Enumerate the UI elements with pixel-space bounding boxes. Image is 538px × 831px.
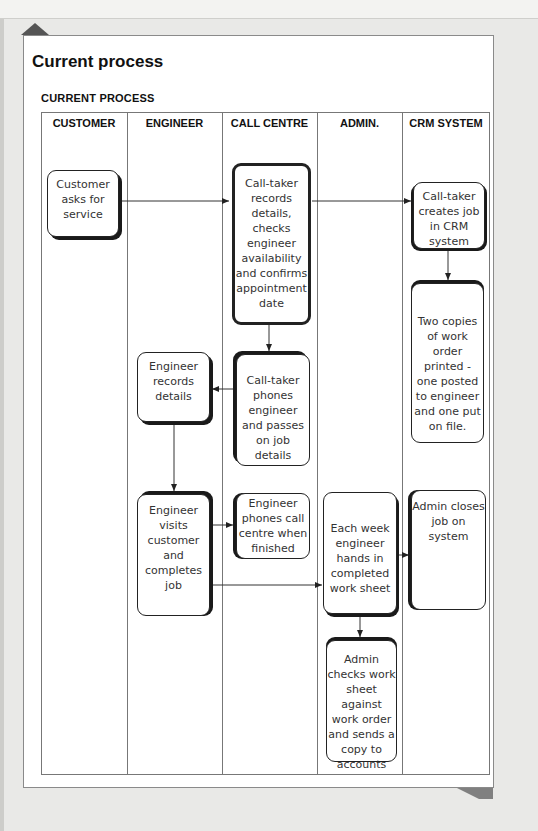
step-customer-asks-for-service: Customer asks for service xyxy=(47,170,119,237)
step-admin-checks-worksheet: Admin checks work sheet against work ord… xyxy=(326,640,397,762)
step-text: Call-taker records details, checks engin… xyxy=(235,176,308,311)
step-text: Engineer visits customer and completes j… xyxy=(138,503,209,593)
step-calltaker-records-details: Call-taker records details, checks engin… xyxy=(232,163,311,325)
step-engineer-visits-customer: Engineer visits customer and completes j… xyxy=(137,494,210,616)
step-two-copies-printed: Two copies of work order printed - one p… xyxy=(411,283,484,443)
step-text: Two copies of work order printed - one p… xyxy=(412,314,483,434)
step-text: Engineer phones call centre when finishe… xyxy=(237,496,309,556)
step-text: Admin checks work sheet against work ord… xyxy=(327,652,396,772)
step-text: Call-taker creates job in CRM system xyxy=(414,189,484,249)
step-text: Customer asks for service xyxy=(48,177,118,222)
step-text: Engineer records details xyxy=(138,359,209,404)
step-text: Each week engineer hands in completed wo… xyxy=(324,521,396,596)
step-calltaker-creates-job-in-crm: Call-taker creates job in CRM system xyxy=(413,182,485,249)
step-engineer-records-details: Engineer records details xyxy=(137,352,210,422)
step-text: Admin closes job on system xyxy=(412,499,485,544)
step-engineer-phones-call-centre: Engineer phones call centre when finishe… xyxy=(236,493,310,559)
step-weekly-worksheet-handed-in: Each week engineer hands in completed wo… xyxy=(323,492,397,614)
step-text: Call-taker phones engineer and passes on… xyxy=(237,373,309,463)
step-admin-closes-job: Admin closes job on system xyxy=(411,490,486,610)
step-calltaker-phones-engineer: Call-taker phones engineer and passes on… xyxy=(236,354,310,466)
